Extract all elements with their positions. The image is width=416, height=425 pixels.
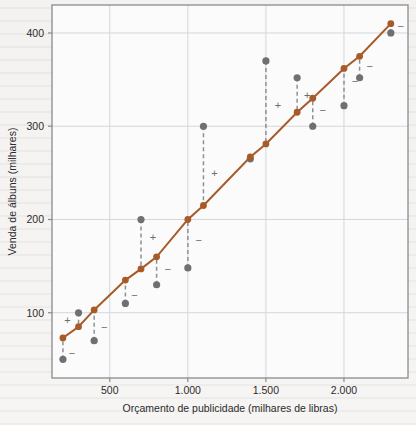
x-tick-label[interactable]: 1.000 [175,384,201,396]
fitted-point[interactable] [263,141,270,148]
fitted-point[interactable] [356,53,363,60]
figure-regression-residuals: 5001.0001.5002.000100200300400 −+−−+−−++… [0,0,416,425]
fitted-point[interactable] [309,95,316,102]
fitted-point[interactable] [387,20,394,27]
observed-point[interactable] [153,281,160,288]
x-tick-label[interactable]: 1.500 [253,384,279,396]
residual-sign[interactable]: − [398,20,404,32]
x-tick-label[interactable]: 2.000 [331,384,357,396]
scatter-plot-svg: 5001.0001.5002.000100200300400 −+−−+−−++… [0,0,416,425]
observed-point[interactable] [387,29,394,36]
observed-point[interactable] [184,264,191,271]
fitted-point[interactable] [200,202,207,209]
residual-sign[interactable]: − [196,234,202,246]
y-tick-label[interactable]: 100 [26,307,44,319]
fitted-point[interactable] [184,216,191,223]
observed-point[interactable] [91,337,98,344]
residual-sign[interactable]: + [211,167,217,179]
observed-point[interactable] [309,123,316,130]
observed-point[interactable] [122,300,129,307]
fitted-point[interactable] [247,154,254,161]
residual-sign[interactable]: + [64,314,70,326]
residual-sign[interactable]: − [352,75,358,87]
residual-sign[interactable]: − [320,104,326,116]
x-tick-label[interactable]: 500 [101,384,119,396]
fitted-point[interactable] [91,307,98,314]
fitted-point[interactable] [122,277,129,284]
y-tick-label[interactable]: 200 [26,213,44,225]
observed-point[interactable] [294,74,301,81]
residual-sign[interactable]: + [304,89,310,101]
residual-sign[interactable]: − [164,263,170,275]
x-axis-title[interactable]: Orçamento de publicidade (milhares de li… [123,402,338,414]
residual-sign[interactable]: − [101,321,107,333]
fitted-point[interactable] [341,65,348,72]
observed-point[interactable] [262,57,269,64]
residual-sign[interactable]: − [69,347,75,359]
y-tick-label[interactable]: 400 [26,27,44,39]
fitted-point[interactable] [75,323,82,330]
observed-point[interactable] [200,123,207,130]
residual-sign[interactable]: − [366,60,372,72]
residual-sign[interactable]: + [150,231,156,243]
fitted-point[interactable] [294,109,301,116]
observed-point[interactable] [59,356,66,363]
residual-sign[interactable]: + [275,99,281,111]
fitted-point[interactable] [153,253,160,260]
fitted-point[interactable] [60,335,67,342]
y-axis-title[interactable]: Venda de álbuns (milhares) [6,128,18,256]
fitted-point[interactable] [138,265,145,272]
observed-point[interactable] [137,216,144,223]
observed-point[interactable] [75,309,82,316]
y-tick-label[interactable]: 300 [26,120,44,132]
observed-point[interactable] [340,102,347,109]
residual-sign[interactable]: − [131,289,137,301]
